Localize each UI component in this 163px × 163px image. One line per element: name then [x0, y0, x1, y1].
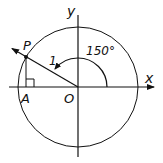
- angle-arc: [55, 58, 107, 87]
- point-p: [24, 55, 28, 59]
- unit-circle-diagram: y x P A O 1 150°: [0, 0, 163, 163]
- origin-label: O: [64, 91, 74, 106]
- point-a-label: A: [20, 91, 30, 106]
- point-p-label: P: [23, 38, 31, 53]
- y-axis-label: y: [66, 3, 76, 19]
- right-angle-marker: [26, 79, 34, 87]
- angle-label: 150°: [86, 44, 115, 58]
- terminal-ray: [12, 49, 78, 88]
- x-axis-label: x: [144, 70, 154, 86]
- radius-label: 1: [49, 54, 57, 68]
